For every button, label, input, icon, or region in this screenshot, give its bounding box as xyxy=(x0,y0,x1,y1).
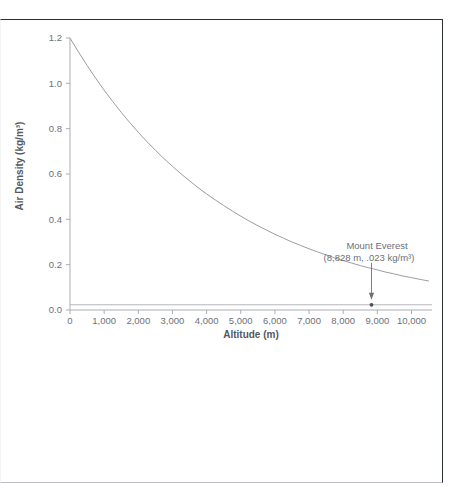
x-tick-label: 7,000 xyxy=(297,315,321,326)
x-tick-label: 0 xyxy=(67,315,72,326)
x-axis-tick-labels: 01,0002,0003,0004,0005,0006,0007,0008,00… xyxy=(67,315,426,326)
y-tick-label: 1.2 xyxy=(49,32,62,43)
y-tick-label: 0.0 xyxy=(49,304,62,315)
mount-everest-data-point xyxy=(370,303,374,307)
x-tick-label: 6,000 xyxy=(263,315,287,326)
y-tick-label: 0.6 xyxy=(49,168,62,179)
y-axis-title: Air Density (kg/m³) xyxy=(13,96,27,236)
x-tick-label: 1,000 xyxy=(92,315,116,326)
x-tick-label: 5,000 xyxy=(229,315,253,326)
annotation-arrow-head xyxy=(369,293,374,300)
mount-everest-annotation-value: (8,828 m, .023 kg/m³) xyxy=(306,252,432,263)
x-tick-label: 3,000 xyxy=(161,315,185,326)
x-tick-label: 8,000 xyxy=(331,315,355,326)
y-tick-label: 0.8 xyxy=(49,123,62,134)
x-tick-label: 2,000 xyxy=(126,315,150,326)
x-axis-title: Altitude (m) xyxy=(70,329,432,340)
y-tick-label: 1.0 xyxy=(49,78,62,89)
x-tick-label: 9,000 xyxy=(365,315,389,326)
y-axis-tick-labels: 0.00.20.40.60.81.01.2 xyxy=(49,32,62,315)
y-axis-ticks xyxy=(66,38,70,310)
x-axis-ticks xyxy=(70,310,412,314)
x-tick-label: 4,000 xyxy=(195,315,219,326)
mount-everest-annotation-title: Mount Everest xyxy=(322,240,432,251)
x-tick-label: 10,000 xyxy=(397,315,426,326)
y-tick-label: 0.4 xyxy=(49,214,62,225)
y-tick-label: 0.2 xyxy=(49,259,62,270)
